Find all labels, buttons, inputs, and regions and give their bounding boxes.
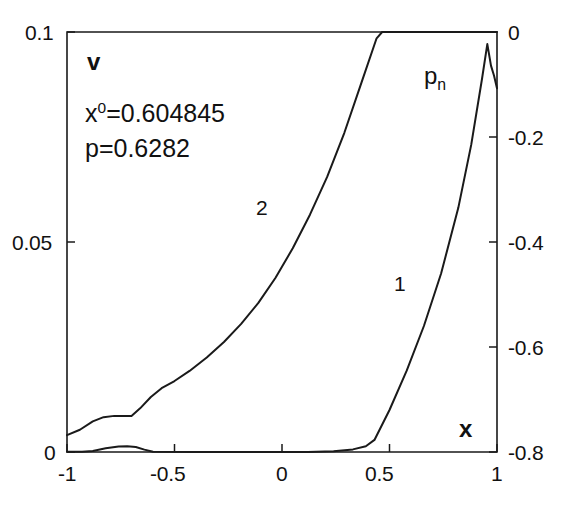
data-curves: [67, 32, 497, 452]
x-tick-label--0.5: -0.5: [150, 462, 185, 486]
x-tick-label-1: 1: [491, 462, 502, 486]
x-tick-label-0: 0: [276, 462, 287, 486]
left-tick-label-0.05: 0.05: [12, 231, 52, 255]
plot-svg: [0, 0, 565, 514]
param-x0-annotation: x0=0.604845: [85, 99, 225, 128]
plot-frame: [67, 32, 497, 452]
right-tick-label--0.8: -0.8: [508, 441, 543, 465]
right-axis-name-sub: n: [437, 76, 446, 93]
x-tick-label--1: -1: [58, 462, 76, 486]
right-tick-label-0: 0: [508, 21, 519, 45]
axes-frame: [67, 32, 497, 452]
right-tick-label--0.4: -0.4: [508, 231, 543, 255]
curve-2-path: [67, 32, 497, 435]
left-tick-label-0.1: 0.1: [25, 21, 54, 45]
x-tick-label-0.5: 0.5: [365, 462, 394, 486]
left-axis-ticks: [67, 32, 75, 452]
param-x0-prefix: x: [85, 99, 98, 127]
figure-canvas: 0 0.05 0.1 0 -0.2 -0.4 -0.6 -0.8 -1 -0.5…: [0, 0, 565, 514]
right-tick-label--0.2: -0.2: [508, 126, 543, 150]
right-axis-name-base: p: [424, 62, 437, 89]
x-axis-name: x: [459, 415, 472, 443]
param-x0-superscript: 0: [98, 99, 107, 116]
curve-2-label: 2: [256, 196, 268, 220]
bottom-axis-ticks: [67, 444, 497, 452]
right-axis-name: pn: [424, 62, 446, 90]
left-tick-label-0: 0: [44, 441, 55, 465]
left-axis-name: v: [87, 48, 100, 76]
param-p-annotation: p=0.6282: [85, 134, 190, 163]
param-x0-value: =0.604845: [106, 99, 225, 127]
right-tick-label--0.6: -0.6: [508, 336, 543, 360]
right-axis-ticks: [489, 32, 497, 452]
curve-1-label: 1: [394, 272, 406, 296]
